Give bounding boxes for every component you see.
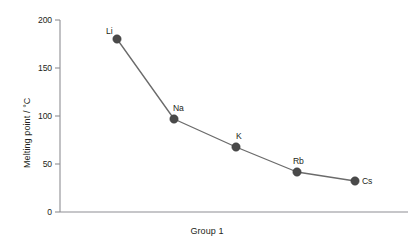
data-markers-group (113, 35, 359, 185)
point-label-cs: Cs (362, 176, 372, 186)
point-label-k: K (236, 131, 242, 141)
y-tick-label-200: 200 (27, 15, 52, 25)
x-axis-title: Group 1 (0, 226, 414, 236)
data-point-cs[interactable] (351, 177, 359, 185)
y-tick-label-0: 0 (27, 207, 52, 217)
chart-plot-svg (0, 0, 414, 248)
point-label-rb: Rb (293, 156, 304, 166)
data-point-li[interactable] (113, 35, 121, 43)
point-label-na: Na (173, 103, 184, 113)
point-label-li: Li (106, 26, 113, 36)
y-axis-title: Melting point / °C (22, 98, 32, 168)
y-tick-label-150: 150 (27, 63, 52, 73)
y-tick-marks-group (55, 20, 60, 212)
data-point-k[interactable] (232, 143, 240, 151)
data-point-na[interactable] (170, 115, 178, 123)
melting-point-series-line (117, 39, 355, 181)
chart-figure: 200 150 100 50 0 Li Na K Rb Cs Melting p… (0, 0, 414, 248)
data-point-rb[interactable] (293, 168, 301, 176)
